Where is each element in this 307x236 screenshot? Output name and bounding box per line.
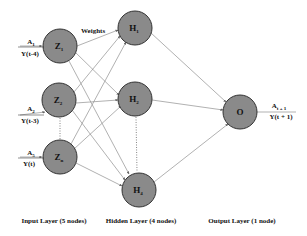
input-node-zn: Zn <box>43 140 77 174</box>
output-layer-label: Output Layer (1 node) <box>208 217 276 225</box>
input-label-zn: A5 Y(t) <box>18 149 44 168</box>
hidden-node-h2: H2 <box>118 82 152 116</box>
svg-text:A2: A2 <box>27 105 35 114</box>
hidden-layer-label: Hidden Layer (4 nodes) <box>106 217 177 225</box>
svg-text:At + 1: At + 1 <box>272 102 287 111</box>
hidden-node-h4: H4 <box>122 173 156 207</box>
hidden-node-h1: H1 <box>118 11 152 45</box>
input-node-z2: Z2 <box>42 83 76 117</box>
svg-text:A1: A1 <box>27 38 35 47</box>
weights-label: Weights <box>81 27 105 35</box>
hidden-ellipsis <box>136 117 137 172</box>
hidden-output-edges <box>151 33 228 182</box>
input-label-z2: A2 Y(t-3) <box>18 105 44 125</box>
svg-text:Y(t-4): Y(t-4) <box>21 50 40 58</box>
input-layer-label: Input Layer (5 nodes) <box>21 217 87 225</box>
svg-text:Y(t): Y(t) <box>23 160 36 168</box>
svg-text:Y(t + 1): Y(t + 1) <box>269 113 293 121</box>
output-node-o: O <box>223 95 257 129</box>
svg-text:Y(t-3): Y(t-3) <box>21 117 40 125</box>
output-label: At + 1 Y(t + 1) <box>269 102 293 121</box>
input-label-z1: A1 Y(t-4) <box>18 38 44 58</box>
svg-text:A5: A5 <box>27 149 35 158</box>
input-node-z1: Z1 <box>43 29 77 63</box>
neural-network-diagram: Z1 Z2 Zn H1 H2 H4 O A1 Y(t-4) A2 Y(t-3) … <box>0 0 307 236</box>
input-arrows <box>20 46 45 157</box>
svg-text:O: O <box>236 107 243 117</box>
